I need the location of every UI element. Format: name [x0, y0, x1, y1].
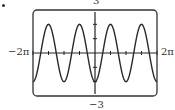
graph-window — [0, 0, 175, 110]
